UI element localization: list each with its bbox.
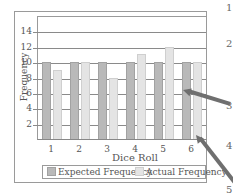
legend: Expected Frequency Actual Frequency (42, 165, 206, 179)
bar-actual-4 (137, 54, 146, 139)
y-tick-label-4: 4 (18, 103, 32, 113)
y-tick-label-12: 12 (18, 42, 32, 52)
bar-expected-3 (98, 62, 107, 139)
bar-actual-6 (193, 62, 202, 139)
bar-expected-4 (126, 62, 135, 139)
margin-number-1: 1 (226, 2, 232, 13)
bar-expected-2 (70, 62, 79, 139)
gridline-4 (38, 109, 206, 110)
legend-swatch-expected (47, 167, 56, 176)
bar-actual-3 (109, 78, 118, 140)
gridline-12 (38, 48, 206, 49)
gridline-14 (38, 32, 206, 33)
bar-actual-5 (165, 47, 174, 139)
margin-number-4: 4 (226, 140, 232, 151)
x-tick-label-2: 2 (72, 144, 86, 154)
bar-actual-1 (53, 70, 62, 139)
gridline-2 (38, 125, 206, 126)
x-axis-title: Dice Roll (90, 152, 180, 163)
y-tick-6 (33, 94, 38, 95)
y-tick-label-14: 14 (18, 26, 32, 36)
y-tick-label-10: 10 (18, 57, 32, 67)
bar-expected-6 (182, 62, 191, 139)
x-tick-label-1: 1 (44, 144, 58, 154)
margin-number-5: 5 (226, 184, 232, 195)
y-tick-8 (33, 79, 38, 80)
legend-label-actual: Actual Frequency (146, 167, 227, 177)
legend-item-actual: Actual Frequency (135, 166, 227, 178)
y-tick-label-8: 8 (18, 73, 32, 83)
plot-area (37, 16, 207, 140)
bar-expected-1 (42, 62, 51, 139)
y-tick-2 (33, 125, 38, 126)
y-tick-4 (33, 109, 38, 110)
gridline-8 (38, 79, 206, 80)
x-tick-label-6: 6 (184, 144, 198, 154)
y-tick-10 (33, 63, 38, 64)
margin-number-2: 2 (226, 38, 232, 49)
bar-actual-2 (81, 62, 90, 139)
legend-swatch-actual (135, 167, 144, 176)
bar-expected-5 (154, 62, 163, 139)
y-tick-label-2: 2 (18, 119, 32, 129)
y-tick-label-6: 6 (18, 88, 32, 98)
gridline-10 (38, 63, 206, 64)
gridline-6 (38, 94, 206, 95)
y-tick-14 (33, 32, 38, 33)
y-tick-12 (33, 48, 38, 49)
